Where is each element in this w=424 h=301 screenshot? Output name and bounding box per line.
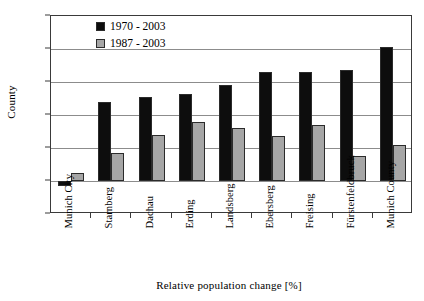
x-tick-mark-3 [171,213,172,218]
bar-2-series-0 [139,97,152,181]
bar-5-series-1 [272,136,285,181]
bar-6-series-1 [312,125,325,181]
legend-item-0: 1970 - 2003 [96,18,166,35]
bar-2-series-1 [152,135,165,181]
x-tick-mark-2 [130,213,131,218]
legend: 1970 - 2003 1987 - 2003 [96,18,166,52]
category-label-2: Dachau [144,196,155,229]
category-label-6: Freising [305,193,316,228]
category-label-5: Ebersberg [265,185,276,228]
legend-label-series-1: 1987 - 2003 [110,38,166,50]
x-tick-mark-7 [332,213,333,218]
bar-3-series-1 [192,122,205,181]
bar-3-series-0 [179,94,192,181]
y-axis-title: County [5,72,17,132]
bar-4-series-1 [232,128,245,181]
legend-label-series-0: 1970 - 2003 [110,21,166,33]
category-label-0: Munich City [64,174,75,228]
legend-item-1: 1987 - 2003 [96,35,166,52]
bar-1-series-0 [98,102,111,181]
legend-swatch-icon-series-0 [96,22,105,31]
bar-4-series-0 [219,85,232,181]
category-label-4: Landsberg [225,183,236,228]
category-label-3: Erding [184,199,195,228]
legend-swatch-icon-series-1 [96,39,105,48]
x-axis-title: Relative population change [%] [0,279,424,291]
x-tick-mark-5 [251,213,252,218]
x-tick-mark-1 [90,213,91,218]
x-axis-title-text: Relative population change [%] [156,279,302,291]
category-label-7: Fürstenfeldbruck [345,155,356,228]
bar-5-series-0 [259,72,272,181]
x-tick-mark-8 [372,213,373,218]
x-tick-mark-6 [291,213,292,218]
x-tick-mark-4 [211,213,212,218]
bar-chart: County -20020406080100 Munich CityStarnb… [0,0,424,301]
category-label-8: Munich County [385,161,396,229]
bar-1-series-1 [111,153,124,181]
bar-6-series-0 [299,72,312,181]
category-label-1: Starnberg [104,187,115,229]
